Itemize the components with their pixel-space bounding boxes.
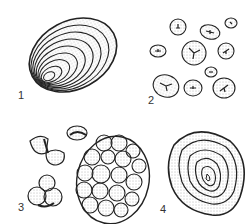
grain-3-polyhedral-aggregate (69, 129, 158, 224)
figure-canvas: 1 2 (0, 0, 248, 224)
panel-label-4: 4 (160, 203, 166, 215)
panel-label-2: 2 (148, 94, 154, 106)
panel-label-3: 3 (18, 201, 24, 213)
grain-1-oval-lamellate (16, 3, 129, 106)
grain-4-concentric (168, 132, 244, 215)
panel-label-1: 1 (18, 89, 24, 101)
